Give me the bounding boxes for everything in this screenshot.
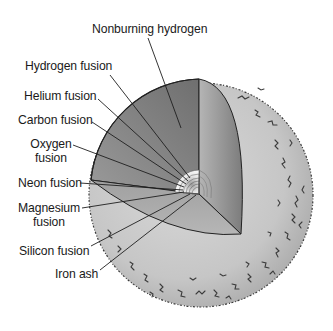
- label-oxygen-fusion-line2: fusion: [30, 151, 72, 165]
- label-magnesium-fusion: Magnesium fusion: [18, 201, 80, 229]
- star-cutaway-diagram: [0, 0, 333, 331]
- label-helium-fusion: Helium fusion: [24, 89, 97, 103]
- label-nonburning-hydrogen: Nonburning hydrogen: [92, 22, 207, 36]
- label-magnesium-fusion-line1: Magnesium: [18, 201, 80, 215]
- label-oxygen-fusion: Oxygen fusion: [30, 137, 72, 165]
- label-silicon-fusion: Silicon fusion: [19, 244, 89, 258]
- label-carbon-fusion: Carbon fusion: [18, 113, 93, 127]
- label-neon-fusion: Neon fusion: [18, 176, 82, 190]
- label-iron-ash: Iron ash: [55, 267, 98, 281]
- label-hydrogen-fusion: Hydrogen fusion: [25, 59, 112, 73]
- label-magnesium-fusion-line2: fusion: [18, 215, 80, 229]
- label-oxygen-fusion-line1: Oxygen: [30, 137, 72, 151]
